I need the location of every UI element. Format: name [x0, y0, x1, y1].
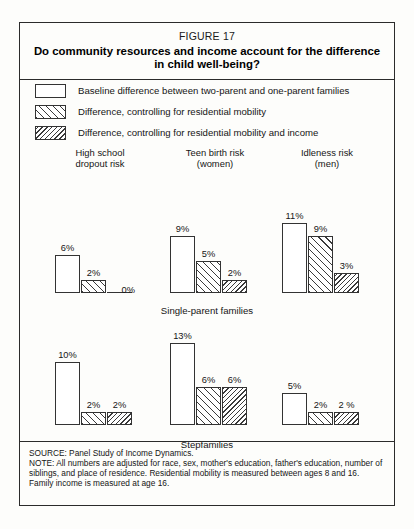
legend-item-baseline: Baseline difference between two-parent a…	[20, 80, 394, 101]
bar-value-label: 3%	[340, 261, 353, 271]
bar-group-single-teen-birth: 9% 5% 2%	[152, 177, 278, 315]
bar-value-label: 5%	[288, 381, 301, 391]
bar-group-step-idleness: 5% 2% 2 %	[264, 315, 390, 447]
column-header-teen-birth: Teen birth risk (women)	[155, 147, 275, 170]
bar-value-label: 0%	[122, 285, 135, 295]
legend-swatch-mobility-income-icon	[35, 126, 66, 140]
figure-title: Do community resources and income accoun…	[20, 45, 394, 72]
bar-value-label: 10%	[58, 350, 77, 360]
legend-swatch-baseline-icon	[35, 84, 66, 98]
bar-rect	[222, 387, 247, 425]
bar-value-label: 9%	[176, 224, 189, 234]
column-header-dropout: High school dropout risk	[40, 147, 160, 170]
bar-single-teen-mobility-income: 2%	[222, 280, 247, 293]
legend-swatch-mobility-icon	[35, 105, 66, 119]
column-header-dropout-line2: dropout risk	[76, 158, 125, 169]
charts-area: High school dropout risk Teen birth risk…	[20, 147, 394, 447]
column-header-teen-birth-line2: (women)	[197, 158, 233, 169]
figure-page: FIGURE 17 Do community resources and inc…	[0, 0, 414, 529]
bar-rect	[170, 343, 195, 425]
bar-value-label: 2%	[113, 400, 126, 410]
bars: 11% 9% 3%	[264, 193, 390, 293]
legend-label-mobility-income: Difference, controlling for residential …	[78, 127, 318, 138]
bars: 13% 6% 6%	[152, 325, 278, 425]
bar-value-label: 2 %	[338, 400, 354, 410]
bar-value-label: 6%	[228, 375, 241, 385]
bar-group-single-idleness: 11% 9% 3%	[264, 177, 390, 315]
bar-step-dropout-baseline: 10%	[55, 362, 80, 425]
title-block: FIGURE 17 Do community resources and inc…	[20, 23, 394, 80]
bar-single-dropout-baseline: 6%	[55, 255, 80, 293]
bar-single-idleness-mobility: 9%	[308, 236, 333, 293]
page-top-margin	[0, 0, 414, 20]
bar-single-teen-baseline: 9%	[170, 236, 195, 293]
bar-rect	[282, 223, 307, 293]
bar-step-idleness-baseline: 5%	[282, 393, 307, 425]
bar-rect	[282, 393, 307, 425]
bar-rect	[222, 280, 247, 293]
bar-single-dropout-mobility: 2%	[81, 280, 106, 293]
bar-rect	[170, 236, 195, 293]
bar-value-label: 6%	[61, 243, 74, 253]
bar-rect	[196, 261, 221, 293]
bar-rect	[81, 412, 106, 425]
bar-step-idleness-mobility-income: 2 %	[334, 412, 359, 425]
legend-item-mobility-income: Difference, controlling for residential …	[20, 122, 394, 143]
figure-container: FIGURE 17 Do community resources and inc…	[19, 22, 395, 506]
figure-title-line1: Do community resources and income accoun…	[34, 45, 380, 57]
column-header-idleness-line2: (men)	[315, 158, 339, 169]
bar-rect	[107, 412, 132, 425]
bar-rect	[308, 236, 333, 293]
column-header-teen-birth-line1: Teen birth risk	[186, 147, 244, 158]
bar-group-single-dropout: 6% 2% 0%	[37, 177, 163, 315]
bar-group-step-dropout: 10% 2% 2%	[37, 315, 163, 447]
bar-group-step-teen-birth: 13% 6% 6%	[152, 315, 278, 447]
bar-value-label: 2%	[87, 268, 100, 278]
legend-item-mobility: Difference, controlling for residential …	[20, 101, 394, 122]
bar-rect	[334, 273, 359, 293]
bar-rect	[334, 412, 359, 425]
bar-rect	[308, 412, 333, 425]
legend: Baseline difference between two-parent a…	[20, 80, 394, 143]
figure-number: FIGURE 17	[20, 30, 394, 42]
bar-step-dropout-mobility-income: 2%	[107, 412, 132, 425]
bar-value-label: 11%	[286, 211, 304, 221]
legend-label-baseline: Baseline difference between two-parent a…	[78, 85, 349, 96]
bar-value-label: 2%	[228, 268, 241, 278]
bar-rect	[196, 387, 221, 425]
bar-step-teen-baseline: 13%	[170, 343, 195, 425]
note-block: SOURCE: Panel Study of Income Dynamics. …	[20, 441, 394, 505]
bar-single-teen-mobility: 5%	[196, 261, 221, 293]
bar-value-label: 6%	[202, 375, 215, 385]
figure-title-line2: in child well-being?	[154, 58, 260, 70]
bar-rect	[55, 255, 80, 293]
column-header-dropout-line1: High school	[76, 147, 125, 158]
panel-stepfamilies: 10% 2% 2%	[20, 315, 394, 447]
bar-value-label: 9%	[314, 224, 327, 234]
bar-value-label: 2%	[314, 400, 327, 410]
bar-value-label: 5%	[202, 249, 215, 259]
bar-rect	[81, 280, 106, 293]
column-headers: High school dropout risk Teen birth risk…	[20, 147, 394, 177]
bar-step-teen-mobility: 6%	[196, 387, 221, 425]
column-header-idleness: Idleness risk (men)	[267, 147, 387, 170]
bars: 9% 5% 2%	[152, 193, 278, 293]
column-header-idleness-line1: Idleness risk	[301, 147, 353, 158]
bars: 6% 2% 0%	[37, 193, 163, 293]
bar-step-teen-mobility-income: 6%	[222, 387, 247, 425]
legend-label-mobility: Difference, controlling for residential …	[78, 106, 266, 117]
bar-single-idleness-baseline: 11%	[282, 223, 307, 293]
bar-value-label: 2%	[87, 400, 100, 410]
bar-step-dropout-mobility: 2%	[81, 412, 106, 425]
bars: 5% 2% 2 %	[264, 325, 390, 425]
panel-single-parent: 6% 2% 0%	[20, 177, 394, 315]
bar-step-idleness-mobility: 2%	[308, 412, 333, 425]
bar-single-dropout-mobility-income: 0%	[107, 292, 132, 293]
note-source: SOURCE: Panel Study of Income Dynamics.	[29, 448, 385, 458]
bar-single-idleness-mobility-income: 3%	[334, 273, 359, 293]
note-body: NOTE: All numbers are adjusted for race,…	[29, 458, 385, 488]
bar-rect	[55, 362, 80, 425]
bars: 10% 2% 2%	[37, 325, 163, 425]
bar-value-label: 13%	[173, 331, 192, 341]
